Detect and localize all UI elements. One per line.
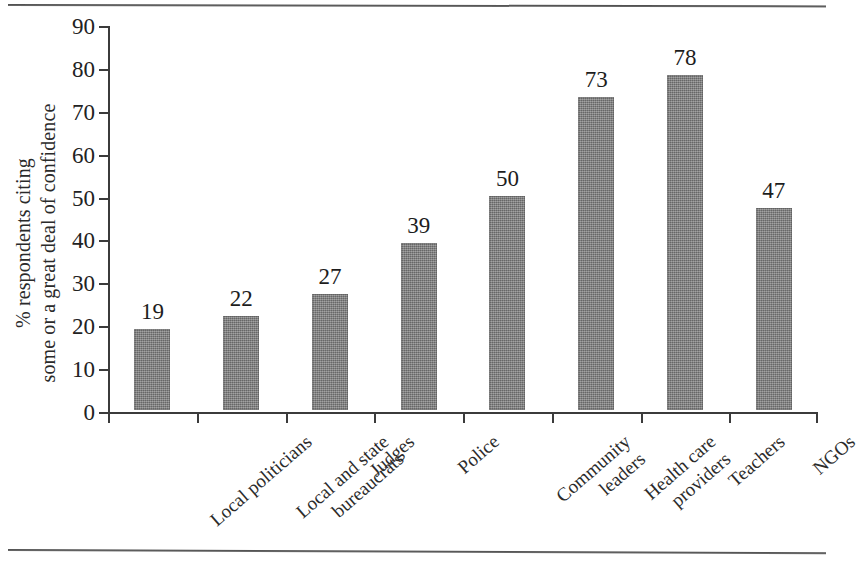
x-tick-mark [816,412,818,423]
bar [401,243,437,410]
x-tick-mark [552,412,554,423]
y-tick-label: 20 [72,315,95,338]
y-tick-label: 40 [72,229,95,252]
bar [756,208,792,410]
x-axis-category-label-line: Teachers [723,430,789,491]
bar-value-label: 19 [141,300,164,323]
y-axis-title: % respondents citing some or a great dea… [11,43,61,443]
y-tick-label: 70 [72,100,95,123]
x-tick-mark [729,412,731,423]
y-tick-label: 50 [72,186,95,209]
bar-slot: 73 [552,26,641,412]
y-tick-mark [99,198,108,200]
bar-value-label: 73 [585,68,608,91]
x-tick-mark [108,412,110,423]
x-axis-category-label: NGOs [808,430,859,479]
x-axis-category-label-line: Police [452,430,503,479]
bar-slot: 47 [729,26,818,412]
bar [134,329,170,410]
bar-slot: 19 [108,26,197,412]
x-axis-category-label: Communityleaders [552,430,651,524]
y-tick-mark [99,283,108,285]
bar-value-label: 78 [673,46,696,69]
bar-slot: 39 [374,26,463,412]
y-axis-title-line-1: % respondents citing [11,43,36,443]
bar-value-label: 47 [762,179,785,202]
y-tick-mark [99,369,108,371]
y-tick-label: 90 [72,15,95,38]
x-axis-category-label: Police [452,430,503,479]
bar [489,196,525,410]
x-tick-mark [197,412,199,423]
bar-slot: 22 [197,26,286,412]
y-tick-label: 10 [72,358,95,381]
y-tick-mark [99,155,108,157]
plot-area: 0102030405060708090 1922273950737847 [108,26,818,412]
bar-value-label: 22 [230,287,253,310]
y-tick-mark [99,412,108,414]
bar [578,97,614,410]
y-tick-mark [99,69,108,71]
x-tick-mark [286,412,288,423]
x-tick-mark [641,412,643,423]
y-tick-label: 0 [84,401,96,424]
bar [223,316,259,410]
bar-value-label: 27 [318,265,341,288]
x-axis-category-label-line: NGOs [808,430,859,479]
bar [312,294,348,410]
x-axis-category-label: Teachers [723,430,789,491]
y-axis-title-line-2: some or a great deal of confidence [36,43,61,443]
bar-slot: 78 [641,26,730,412]
y-tick-mark [99,240,108,242]
bar-slot: 27 [286,26,375,412]
bar [667,75,703,410]
x-axis-category-label: Health careproviders [639,430,735,522]
x-tick-mark [463,412,465,423]
y-tick-mark [99,326,108,328]
y-tick-label: 80 [72,57,95,80]
x-tick-mark [374,412,376,423]
y-tick-mark [99,112,108,114]
bar-value-label: 50 [496,167,519,190]
y-tick-label: 30 [72,272,95,295]
y-tick-label: 60 [72,143,95,166]
bar-value-label: 39 [407,214,430,237]
y-tick-mark [99,26,108,28]
bar-slot: 50 [463,26,552,412]
